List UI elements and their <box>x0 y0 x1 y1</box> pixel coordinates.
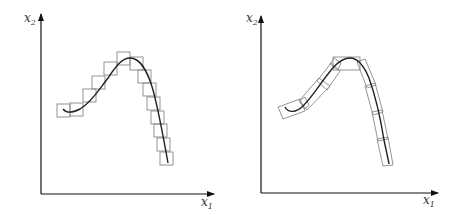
oriented-box <box>377 137 393 166</box>
right-curve <box>285 58 389 164</box>
right-x-axis-label: x1 <box>423 193 435 209</box>
left-panel: x2 x1 <box>24 11 214 211</box>
diagram-canvas: x2 x1 x2 x1 <box>0 0 459 215</box>
box <box>92 76 105 89</box>
right-axes: x2 x1 <box>246 11 438 209</box>
box <box>151 111 164 124</box>
right-y-axis-label: x2 <box>246 11 258 27</box>
left-y-axis-label: x2 <box>24 11 36 27</box>
oriented-box <box>278 99 305 119</box>
right-panel: x2 x1 <box>246 11 438 209</box>
left-x-axis-label: x1 <box>201 195 213 211</box>
box <box>70 103 83 116</box>
left-curve <box>63 58 168 163</box>
left-axes: x2 x1 <box>24 11 214 211</box>
oriented-box <box>317 63 340 90</box>
